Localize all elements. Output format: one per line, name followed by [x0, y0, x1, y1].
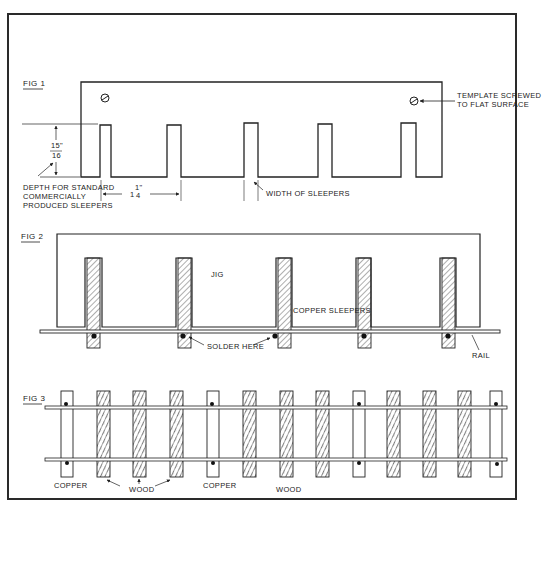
rail-top: [45, 406, 507, 409]
figure-2: FIG 2 JIG COPPER SLEEPERS SOLDER HERE RA…: [21, 232, 500, 360]
spacing-whole: 1: [130, 190, 134, 199]
jig-label: JIG: [211, 270, 224, 279]
width-label: WIDTH OF SLEEPERS: [266, 189, 350, 198]
template-label: TEMPLATE SCREWED: [457, 91, 542, 100]
track-building-diagram: FIG 1 TEMPLATE SCREWED TO FLAT SURFACE 1…: [0, 0, 547, 576]
screw-icon: [410, 97, 418, 105]
rail-label: RAIL: [472, 351, 490, 360]
solder-points: [91, 333, 450, 338]
copper-sleepers: [87, 258, 455, 348]
depth-numerator: 15": [51, 141, 63, 150]
solder-label: SOLDER HERE: [207, 342, 264, 351]
rail: [40, 330, 500, 333]
depth-note-2: COMMERCIALLY: [23, 192, 86, 201]
figure-3: FIG 3 COPPER WOOD: [23, 391, 507, 494]
wood-label: WOOD: [129, 485, 155, 494]
sleepers: [61, 391, 502, 477]
fig1-title: FIG 1: [23, 79, 46, 88]
jig-outline: [57, 234, 480, 327]
copper-label-2: COPPER: [203, 481, 237, 490]
screw-icon: [101, 94, 109, 102]
copper-sleepers-label: COPPER SLEEPERS: [293, 306, 371, 315]
rail-bottom: [45, 458, 507, 461]
fig3-title: FIG 3: [23, 394, 46, 403]
spacing-denominator: 4: [136, 191, 140, 200]
template-label-2: TO FLAT SURFACE: [457, 100, 529, 109]
figure-1: FIG 1 TEMPLATE SCREWED TO FLAT SURFACE 1…: [22, 79, 542, 210]
wood-label-2: WOOD: [276, 485, 302, 494]
template-outline: [81, 82, 442, 177]
copper-label: COPPER: [54, 481, 88, 490]
depth-denominator: 16: [52, 151, 61, 160]
depth-note-3: PRODUCED SLEEPERS: [23, 201, 113, 210]
fig2-title: FIG 2: [21, 232, 44, 241]
